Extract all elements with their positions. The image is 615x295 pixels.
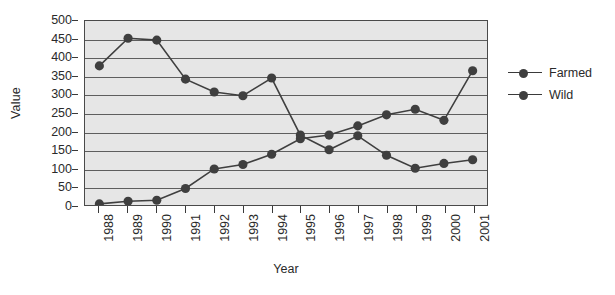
legend-label: Wild: [542, 88, 573, 102]
x-axis-tick-label: 1988: [103, 214, 116, 242]
legend-item-farmed[interactable]: Farmed: [508, 62, 612, 84]
x-axis-tick-label: 1993: [248, 214, 261, 242]
x-axis-tick-label: 2001: [479, 214, 492, 242]
x-axis-tick-labels: 1988198919901991199219931994199519961997…: [84, 214, 488, 260]
legend-item-wild[interactable]: Wild: [508, 84, 612, 106]
data-point-marker: [95, 61, 104, 70]
y-axis-tick-label: 50: [58, 181, 72, 194]
data-point-marker: [267, 150, 276, 159]
data-point-marker: [439, 159, 448, 168]
line-chart-figure: Value 500450400350300250200150100500 198…: [0, 0, 615, 295]
data-point-marker: [324, 131, 333, 140]
y-axis-tick-mark: [72, 76, 78, 77]
data-point-marker: [439, 116, 448, 125]
x-axis-tick-label: 1999: [421, 214, 434, 242]
x-axis-tick-label: 1998: [392, 214, 405, 242]
legend-dot-icon: [519, 91, 528, 100]
data-point-marker: [324, 145, 333, 154]
legend-label: Farmed: [542, 66, 592, 80]
x-axis-tick-mark: [127, 206, 128, 213]
data-point-marker: [181, 75, 190, 84]
data-point-marker: [411, 164, 420, 173]
x-axis-tick-mark: [272, 206, 273, 213]
data-point-marker: [123, 197, 132, 205]
x-axis-tick-mark: [300, 206, 301, 213]
data-point-marker: [152, 196, 161, 205]
x-axis-tick-label: 1990: [161, 214, 174, 242]
data-point-marker: [210, 87, 219, 96]
y-axis-tick-label: 250: [51, 107, 72, 120]
x-axis-tick-mark: [416, 206, 417, 213]
series-wild: [95, 34, 477, 173]
y-axis-tick-mark: [72, 169, 78, 170]
y-axis-tick-mark: [72, 150, 78, 151]
legend-marker-icon: [508, 88, 542, 102]
data-point-marker: [382, 110, 391, 119]
data-point-marker: [411, 105, 420, 114]
data-point-marker: [353, 131, 362, 140]
y-axis-tick-label: 350: [51, 70, 72, 83]
data-point-marker: [95, 199, 104, 205]
data-point-marker: [238, 91, 247, 100]
y-axis-tick-label: 0: [65, 200, 72, 213]
y-axis-tick-mark: [72, 113, 78, 114]
y-axis-tick-label: 200: [51, 125, 72, 138]
x-axis-tick-mark: [358, 206, 359, 213]
x-axis-tick-label: 1995: [305, 214, 318, 242]
x-axis-tick-label: 1992: [219, 214, 232, 242]
series-farmed: [95, 66, 477, 205]
y-axis-tick-mark: [72, 39, 78, 40]
y-axis-tick-label: 150: [51, 144, 72, 157]
y-axis-tick-label: 100: [51, 163, 72, 176]
x-axis-tick-label: 1989: [132, 214, 145, 242]
series-layer: [85, 21, 487, 205]
x-axis-tick-label: 1994: [277, 214, 290, 242]
x-axis-tick-mark: [214, 206, 215, 213]
x-axis-title: Year: [84, 262, 488, 276]
x-axis-title-text: Year: [273, 262, 298, 276]
x-axis-tick-label: 1991: [190, 214, 203, 242]
x-axis-tick-mark: [329, 206, 330, 213]
legend-dot-icon: [519, 69, 528, 78]
y-axis-tick-mark: [72, 94, 78, 95]
x-axis-tick-mark: [156, 206, 157, 213]
y-axis-tick-mark: [72, 132, 78, 133]
x-axis-tick-mark: [243, 206, 244, 213]
y-axis-tick-mark: [72, 57, 78, 58]
x-axis-tick-label: 1996: [334, 214, 347, 242]
x-axis-tick-mark: [387, 206, 388, 213]
y-axis-tick-label: 400: [51, 51, 72, 64]
y-axis-tick-mark: [72, 20, 78, 21]
y-axis-tick-mark: [72, 187, 78, 188]
x-axis-tick-mark: [98, 206, 99, 213]
y-axis-title: Value: [2, 0, 30, 205]
y-axis-tick-mark: [72, 206, 78, 207]
x-axis-tick-mark: [185, 206, 186, 213]
data-point-marker: [210, 164, 219, 173]
y-axis-tick-label: 300: [51, 88, 72, 101]
data-point-marker: [123, 34, 132, 43]
x-axis-tick-mark: [474, 206, 475, 213]
x-axis-tick-label: 2000: [450, 214, 463, 242]
chart-legend: FarmedWild: [508, 62, 612, 106]
y-axis-tick-label: 500: [51, 14, 72, 27]
data-point-marker: [382, 151, 391, 160]
data-point-marker: [296, 131, 305, 140]
plot-area: [84, 20, 488, 206]
data-point-marker: [267, 73, 276, 82]
data-point-marker: [468, 66, 477, 75]
data-point-marker: [353, 121, 362, 130]
data-point-marker: [468, 155, 477, 164]
y-axis-tick-label: 450: [51, 32, 72, 45]
data-point-marker: [238, 160, 247, 169]
x-axis-tick-label: 1997: [363, 214, 376, 242]
y-axis-title-text: Value: [9, 86, 23, 118]
y-axis-tick-labels: 500450400350300250200150100500: [30, 14, 78, 206]
legend-marker-icon: [508, 66, 542, 80]
data-point-marker: [152, 36, 161, 45]
series-line: [99, 38, 472, 168]
data-point-marker: [181, 184, 190, 193]
series-line: [99, 71, 472, 204]
x-axis-tick-mark: [445, 206, 446, 213]
